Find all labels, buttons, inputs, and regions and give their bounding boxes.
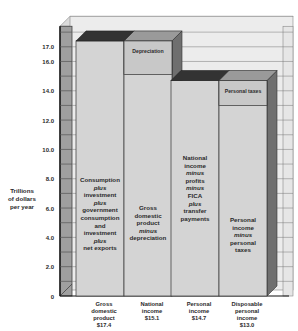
bar-description: depreciation (130, 234, 167, 241)
y-tick-label: 2.0 (46, 264, 55, 270)
y-axis-label: Trillions (10, 187, 34, 194)
y-axis-label: per year (10, 203, 35, 210)
y-tick-label: 0 (51, 294, 55, 300)
bar-description: and (94, 222, 105, 229)
bar-description: consumption (81, 214, 120, 221)
bar-description: profits (185, 177, 205, 184)
bar-description: investment (84, 229, 117, 236)
bar-top (124, 31, 182, 41)
bar-description: government (82, 206, 117, 213)
y-tick-label: 4.0 (46, 235, 55, 241)
bar-description: domestic (134, 212, 162, 219)
bar-description: product (136, 219, 159, 226)
bar-description: plus (93, 199, 107, 206)
category-label: Disposable (232, 301, 264, 307)
bar-description: Personal (230, 216, 256, 223)
bar-description: investment (84, 191, 117, 198)
bar-side (267, 71, 277, 296)
category-label: income (142, 308, 163, 314)
bar-description: minus (186, 169, 205, 176)
category-label: $13.0 (240, 322, 255, 328)
bar-description: payments (181, 215, 210, 222)
category-label: income (237, 315, 258, 321)
y-axis-label: of dollars (8, 195, 36, 202)
y-tick-label: 10.0 (42, 147, 54, 153)
bar-description: minus (139, 227, 158, 234)
y-tick-label: 17.0 (42, 44, 54, 50)
category-label: $14.7 (192, 315, 207, 321)
y-tick-label: 14.0 (42, 88, 54, 94)
category-label: Gross (96, 301, 113, 307)
bar-description: plus (93, 184, 107, 191)
category-label: $17.4 (97, 322, 112, 328)
category-label: domestic (91, 308, 117, 314)
left-wall (60, 26, 72, 296)
bar-description: minus (186, 184, 205, 191)
bar-face (76, 41, 124, 296)
bar-description: net exports (83, 244, 117, 251)
bar-description: personal (230, 239, 256, 246)
category-label: Personal (187, 301, 212, 307)
segment-label: Depreciation (132, 48, 163, 54)
y-tick-label: 16.0 (42, 59, 54, 65)
segment-label: Personal taxes (225, 88, 262, 94)
bar-description: minus (234, 231, 253, 238)
bar-description: Gross (139, 204, 157, 211)
bar-face (219, 81, 267, 296)
category-label: $15.1 (145, 315, 160, 321)
category-label: personal (235, 308, 260, 314)
bar-description: income (232, 224, 254, 231)
deduction-segment (124, 41, 172, 75)
category-label: National (141, 301, 164, 307)
chart: 02.04.06.08.010.012.014.016.017.0Trillio… (0, 0, 298, 331)
bar-description: FICA (188, 192, 203, 199)
right-wall (283, 26, 293, 296)
bar-description: Consumption (80, 176, 120, 183)
bar-4: Personal taxesPersonalincomeminuspersona… (219, 71, 277, 328)
bar-description: taxes (235, 246, 251, 253)
bar-description: plus (93, 237, 107, 244)
y-tick-label: 6.0 (46, 206, 55, 212)
category-label: product (93, 315, 115, 321)
bar-description: plus (188, 200, 202, 207)
y-tick-label: 8.0 (46, 176, 55, 182)
category-label: income (189, 308, 210, 314)
bar-description: National (183, 154, 208, 161)
bar-description: income (184, 162, 206, 169)
bar-face (124, 41, 172, 296)
y-tick-label: 12.0 (42, 118, 54, 124)
bar-top (219, 71, 277, 81)
bar-description: transfer (183, 207, 207, 214)
